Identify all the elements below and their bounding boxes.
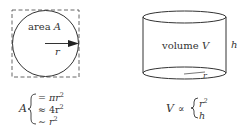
circle-figure: area A r — [12, 10, 79, 77]
volume-eq-line-1: r2 — [199, 97, 208, 109]
arrow-head-icon — [68, 40, 79, 47]
volume-eq-line-2: h — [199, 110, 205, 121]
circle-radius-label: r — [55, 46, 61, 57]
height-label: h — [231, 39, 237, 50]
volume-label: volume V — [161, 40, 211, 51]
cylinder-radius-line — [184, 72, 205, 74]
area-eq-line-1: = πr2 — [38, 91, 64, 103]
area-lhs: A — [18, 102, 27, 115]
cylinder-top — [143, 11, 226, 23]
volume-lhs: V — [166, 102, 175, 115]
area-eq-line-3: ∼ r2 — [38, 115, 58, 127]
area-eq-line-2: ≈ 4r2 — [38, 103, 64, 115]
cylinder-figure: volume V h r — [143, 11, 237, 80]
left-brace-icon — [191, 98, 198, 118]
diagram-canvas: area A r volume V h r A = πr2 ≈ 4r2 ∼ r2… — [0, 0, 245, 133]
area-label: area A — [28, 21, 61, 32]
volume-equations: V ∝ r2 h — [166, 97, 208, 121]
area-equations: A = πr2 ≈ 4r2 ∼ r2 — [18, 91, 64, 127]
proportional-symbol: ∝ — [178, 103, 184, 114]
left-brace-icon — [28, 94, 36, 124]
cylinder-bottom — [143, 67, 226, 79]
cylinder-radius-label: r — [203, 71, 208, 80]
